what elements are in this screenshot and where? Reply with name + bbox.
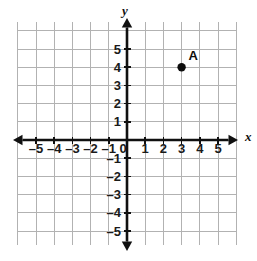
y-axis-arrow-up: [122, 18, 132, 28]
axes-layer: [13, 18, 238, 251]
x-tick-label: –5: [29, 141, 43, 156]
y-tick-label: 3: [114, 78, 121, 93]
coordinate-plane-figure: –5–4–3–2–101234554321–1–2–3–4–5 xy A: [0, 0, 257, 261]
y-tick-label: 4: [114, 60, 122, 75]
y-axis-name: y: [120, 3, 128, 18]
x-tick-label: 2: [160, 141, 167, 156]
point-label-a: A: [189, 48, 199, 63]
y-tick-label: 2: [114, 96, 121, 111]
y-tick-label: –3: [107, 187, 121, 202]
axis-names-layer: xy: [120, 3, 252, 144]
y-axis-arrow-down: [122, 242, 132, 252]
y-tick-label: –2: [107, 169, 121, 184]
y-tick-label: –5: [107, 224, 121, 239]
y-tick-label: 5: [114, 42, 121, 57]
y-tick-label: –4: [107, 205, 122, 220]
plot-canvas: –5–4–3–2–101234554321–1–2–3–4–5 xy A: [0, 0, 257, 261]
x-tick-label: –3: [65, 141, 79, 156]
x-tick-label: 3: [178, 141, 185, 156]
x-tick-label: –4: [47, 141, 62, 156]
x-tick-label: 1: [142, 141, 149, 156]
x-tick-label: 4: [196, 141, 204, 156]
x-axis-name: x: [244, 129, 252, 144]
y-tick-label: –1: [107, 151, 121, 166]
plotted-point-a: [177, 63, 185, 71]
x-tick-label: –2: [83, 141, 97, 156]
plotted-points-layer: A: [177, 48, 198, 71]
x-tick-label: 5: [214, 141, 221, 156]
y-tick-label: 1: [114, 114, 121, 129]
